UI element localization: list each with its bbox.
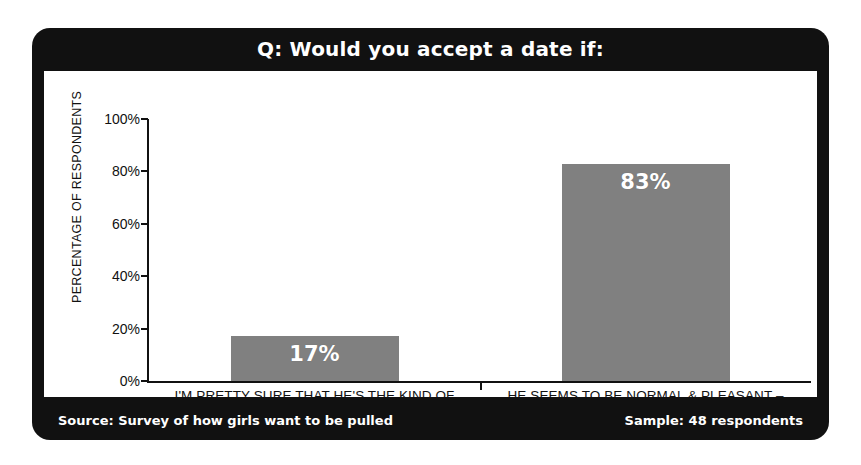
x-category-label-line: I'M PRETTY SURE THAT HE'S THE KIND OF <box>152 387 477 399</box>
y-tick-mark <box>141 380 148 382</box>
y-tick-mark <box>141 275 148 277</box>
bar: 83% <box>562 164 730 381</box>
chart-panel: PERCENTAGE OF RESPONDENTS 0%20%40%60%80%… <box>42 69 819 399</box>
bar-value-label: 83% <box>620 170 670 381</box>
y-tick-label: 20% <box>88 321 140 337</box>
bar-value-label: 17% <box>289 342 339 381</box>
y-tick-label: 80% <box>88 163 140 179</box>
y-axis-tick-labels: 0%20%40%60%80%100% <box>88 71 140 399</box>
page-title: Q: Would you accept a date if: <box>257 37 604 61</box>
chart-title-band: Q: Would you accept a date if: <box>32 28 829 70</box>
y-tick-mark <box>141 328 148 330</box>
x-category-label: I'M PRETTY SURE THAT HE'S THE KIND OFGUY… <box>152 387 477 399</box>
y-tick-mark <box>141 118 148 120</box>
x-category-label-line: HE SEEMS TO BE NORMAL & PLEASANT – <box>483 387 808 399</box>
chart-footer-band: Source: Survey of how girls want to be p… <box>32 400 829 440</box>
bar-chart-plot: PERCENTAGE OF RESPONDENTS 0%20%40%60%80%… <box>44 71 819 399</box>
bar: 17% <box>231 336 399 381</box>
x-category-label: HE SEEMS TO BE NORMAL & PLEASANT –I'LL M… <box>483 387 808 399</box>
x-axis-line <box>147 381 811 383</box>
infographic-card: Q: Would you accept a date if: PERCENTAG… <box>32 28 829 440</box>
y-tick-label: 60% <box>88 216 140 232</box>
footer-sample-text: Sample: 48 respondents <box>625 413 803 428</box>
footer-source-text: Source: Survey of how girls want to be p… <box>58 413 393 428</box>
y-tick-mark <box>141 170 148 172</box>
y-axis-line <box>147 119 149 382</box>
y-axis-title: PERCENTAGE OF RESPONDENTS <box>70 93 84 303</box>
y-tick-mark <box>141 223 148 225</box>
x-category-tick <box>480 383 482 390</box>
y-tick-label: 40% <box>88 268 140 284</box>
y-tick-label: 0% <box>88 373 140 389</box>
y-tick-label: 100% <box>88 111 140 127</box>
